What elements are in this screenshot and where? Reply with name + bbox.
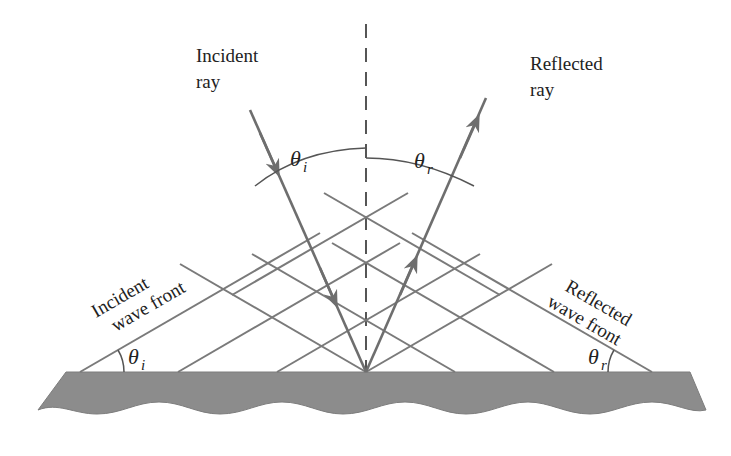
reflected-ray-arrow-upper <box>460 122 476 158</box>
reflected-ray-label-line2: ray <box>530 79 555 100</box>
theta-i-surface: θ i <box>128 344 145 373</box>
reflection-diagram: Incident ray Reflected ray θ i θ r Incid… <box>0 0 731 456</box>
reflected-wave-front-label: Reflected wave front <box>544 271 637 349</box>
svg-text:θ: θ <box>588 344 599 369</box>
angle-arc-incident <box>255 148 366 186</box>
svg-text:i: i <box>141 357 145 373</box>
svg-text:θ: θ <box>290 146 301 171</box>
incident-wave-fronts <box>80 193 552 372</box>
theta-r-upper: θ r <box>414 148 433 177</box>
reflected-ray-label-line1: Reflected <box>530 53 603 74</box>
incident-wave-front-5 <box>232 193 408 295</box>
incident-wave-front-4 <box>366 264 552 372</box>
incident-ray-arrow-upper <box>260 133 276 169</box>
theta-i-upper: θ i <box>290 146 307 175</box>
incident-wave-front-3 <box>277 254 480 372</box>
angle-arc-incident-surface <box>118 350 124 372</box>
incident-ray-label-line2: ray <box>196 71 221 92</box>
angle-arc-reflected-surface <box>608 350 614 372</box>
theta-r-surface: θ r <box>588 344 607 373</box>
reflected-wave-front-4 <box>180 264 366 372</box>
svg-text:i: i <box>303 159 307 175</box>
reflecting-surface <box>38 372 706 414</box>
reflected-wave-front-5 <box>324 193 500 295</box>
svg-text:r: r <box>601 357 607 373</box>
svg-text:θ: θ <box>414 148 425 173</box>
incident-ray-label-line1: Incident <box>196 45 259 66</box>
svg-text:θ: θ <box>128 344 139 369</box>
incident-wave-front-label: Incident wave front <box>88 257 190 340</box>
svg-text:r: r <box>427 161 433 177</box>
reflected-wave-front-3 <box>252 254 455 372</box>
